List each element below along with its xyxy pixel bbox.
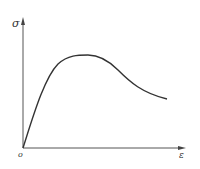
y-axis-arrow-icon — [21, 17, 25, 25]
x-axis — [23, 146, 186, 150]
y-axis — [21, 17, 25, 148]
stress-strain-curve — [23, 55, 167, 148]
stress-strain-diagram — [0, 0, 200, 169]
origin-label: o — [18, 150, 23, 159]
x-axis-label: ε — [179, 150, 184, 160]
y-axis-label: σ — [12, 17, 20, 30]
